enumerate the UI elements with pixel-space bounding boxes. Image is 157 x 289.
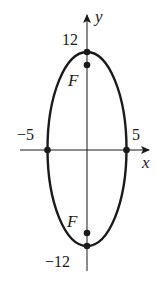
- co-vertex-left-point: [44, 147, 51, 154]
- vertex-top-point: [84, 49, 91, 56]
- focus-bottom-label: F: [66, 212, 78, 231]
- focus-bottom-point: [84, 230, 91, 237]
- ellipse-figure: y x 12 −12 −5 5 F F: [0, 0, 157, 289]
- focus-top-label: F: [67, 71, 79, 90]
- y-pos-tick-label: 12: [62, 31, 78, 48]
- x-pos-tick-label: 5: [132, 126, 140, 143]
- vertex-bottom-point: [84, 243, 91, 250]
- y-axis-label: y: [93, 7, 103, 26]
- x-neg-tick-label: −5: [17, 126, 34, 143]
- focus-top-point: [84, 62, 91, 69]
- ellipse-diagram: y x 12 −12 −5 5 F F: [0, 0, 157, 289]
- co-vertex-right-point: [123, 147, 130, 154]
- y-neg-tick-label: −12: [45, 253, 70, 270]
- x-axis-label: x: [141, 153, 150, 172]
